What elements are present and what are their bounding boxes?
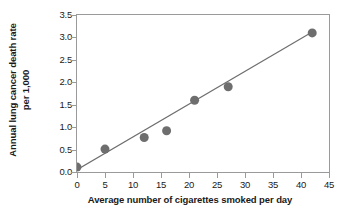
y-axis-tick-label: 0.5 xyxy=(36,145,72,155)
x-axis-tick-mark xyxy=(217,173,218,178)
x-axis-tick-mark xyxy=(273,173,274,178)
y-axis-tick-label: 1.0 xyxy=(36,122,72,132)
y-axis-tick-mark xyxy=(71,37,76,38)
x-axis-tick-label: 5 xyxy=(90,179,120,190)
y-axis-tick-label: 2.0 xyxy=(36,77,72,87)
x-axis-tick-label: 30 xyxy=(230,179,260,190)
y-axis-tick-label: 0.0 xyxy=(36,167,72,177)
x-axis-title: Average number of cigarettes smoked per … xyxy=(40,194,340,205)
data-point-marker xyxy=(162,126,171,135)
x-axis-tick-mark xyxy=(105,173,106,178)
y-axis-title-line-2: per 1,000 xyxy=(19,23,32,156)
x-axis-tick-label: 45 xyxy=(314,179,344,190)
data-point-marker xyxy=(308,28,317,37)
data-point-marker xyxy=(77,163,82,172)
data-point-marker xyxy=(101,145,110,154)
y-axis-tick-mark xyxy=(71,127,76,128)
y-axis-tick-label: 1.5 xyxy=(36,100,72,110)
x-axis-tick-mark xyxy=(133,173,134,178)
x-axis-tick-mark xyxy=(189,173,190,178)
y-axis-tick-mark xyxy=(71,15,76,16)
y-axis-tick-mark xyxy=(71,150,76,151)
x-axis-tick-label: 20 xyxy=(174,179,204,190)
x-axis-tick-mark xyxy=(329,173,330,178)
y-axis-tick-label: 3.0 xyxy=(36,32,72,42)
x-axis-tick-label: 35 xyxy=(258,179,288,190)
plot-area xyxy=(76,14,330,173)
x-axis-tick-mark xyxy=(77,173,78,178)
x-axis-tick-mark xyxy=(245,173,246,178)
plot-svg xyxy=(77,15,329,172)
data-point-marker xyxy=(224,82,233,91)
y-axis-tick-mark xyxy=(71,60,76,61)
y-axis-title: Annual lung cancer death rate per 1,000 xyxy=(0,0,38,180)
x-axis-tick-label: 10 xyxy=(118,179,148,190)
y-axis-tick-mark xyxy=(71,172,76,173)
y-axis-tick-mark xyxy=(71,82,76,83)
y-axis-tick-mark xyxy=(71,105,76,106)
data-series-group xyxy=(77,28,317,171)
x-axis-tick-mark xyxy=(301,173,302,178)
x-axis-tick-label: 25 xyxy=(202,179,232,190)
data-point-marker xyxy=(190,96,199,105)
x-axis-tick-label: 15 xyxy=(146,179,176,190)
x-axis-tick-label: 40 xyxy=(286,179,316,190)
y-axis-title-line-1: Annual lung cancer death rate xyxy=(6,23,19,156)
y-axis-tick-label: 3.5 xyxy=(36,10,72,20)
scatter-plot-figure: Annual lung cancer death rate per 1,000 … xyxy=(0,0,350,214)
x-axis-tick-label: 0 xyxy=(62,179,92,190)
x-axis-tick-mark xyxy=(161,173,162,178)
y-axis-tick-label: 2.5 xyxy=(36,55,72,65)
data-point-marker xyxy=(140,133,149,142)
